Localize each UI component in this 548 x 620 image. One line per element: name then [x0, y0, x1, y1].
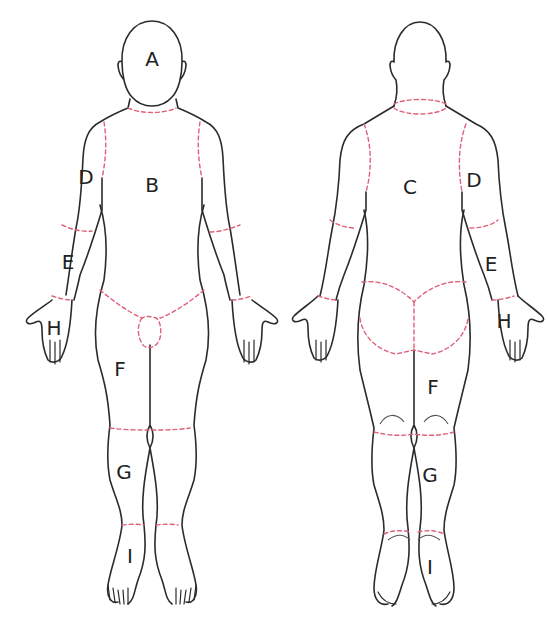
back-label-back: C — [403, 175, 417, 199]
back-ankle-boundary-right — [418, 531, 444, 534]
front-label-head: A — [145, 47, 159, 71]
back-shoulder-boundary-right — [459, 124, 466, 192]
back-head-outline — [390, 22, 450, 106]
back-heel-right — [418, 536, 440, 541]
back-buttock-upper-boundary — [362, 282, 466, 302]
back-wrist-boundary-left — [318, 296, 336, 300]
front-torso-outline — [66, 99, 240, 295]
front-label-foot: I — [127, 544, 133, 568]
front-label-chest: B — [145, 173, 159, 197]
back-label-upper-arm: D — [466, 168, 481, 192]
back-knee-crease-right — [424, 415, 448, 424]
back-neck-boundary — [394, 100, 446, 115]
front-label-upper-arm: D — [78, 165, 93, 189]
back-body-side-left — [358, 210, 388, 604]
back-label-foot: I — [427, 555, 433, 579]
front-ankle-boundary-right — [156, 524, 178, 525]
body-region-diagram: A B D E H F G I — [0, 0, 548, 620]
front-elbow-boundary-right — [210, 225, 240, 232]
back-hand-left — [292, 296, 338, 360]
front-shoulder-boundary-left — [102, 122, 106, 178]
back-knee-boundary — [374, 432, 454, 435]
front-label-forearm: E — [62, 250, 75, 274]
front-center-leg-line — [128, 345, 172, 604]
back-wrist-boundary-right — [492, 296, 514, 300]
back-label-hand: H — [496, 309, 511, 333]
front-wrist-boundary-right — [232, 296, 252, 300]
back-elbow-boundary-right — [470, 220, 498, 228]
back-toes-right — [432, 592, 450, 604]
back-knee-crease-left — [380, 415, 404, 424]
front-body-side-right — [182, 205, 208, 602]
front-shoulder-boundary-right — [198, 122, 202, 178]
back-body-side-right — [440, 210, 470, 604]
back-label-forearm: E — [485, 252, 498, 276]
front-inner-arm-left — [74, 178, 102, 300]
front-ankle-boundary-left — [122, 524, 144, 525]
front-genital-boundary — [138, 317, 160, 348]
front-view: A B D E H F G I — [26, 21, 277, 604]
front-hand-right — [232, 300, 278, 362]
back-shoulder-boundary-left — [364, 124, 370, 192]
back-toes-left — [378, 592, 396, 604]
back-label-thigh: F — [427, 375, 439, 399]
front-label-thigh: F — [114, 357, 126, 381]
back-heel-left — [388, 536, 410, 541]
front-groin-boundary — [100, 290, 204, 318]
front-neck-boundary — [128, 108, 176, 113]
front-label-lower-leg: G — [116, 460, 132, 484]
back-inner-arm-right — [462, 192, 492, 300]
front-body-side-left — [96, 205, 122, 602]
front-wrist-boundary-left — [52, 296, 72, 300]
back-label-lower-leg: G — [422, 463, 438, 487]
front-knee-boundary — [110, 428, 190, 430]
front-label-hand: H — [46, 316, 61, 340]
back-inner-arm-left — [336, 192, 366, 300]
back-ankle-boundary-left — [384, 531, 410, 534]
back-view: C D E H F G I — [292, 22, 543, 606]
